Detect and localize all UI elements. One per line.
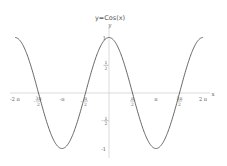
svg-text:π: π [154,96,158,102]
chart-title: y=Cos(x) [95,14,125,22]
x-tick-label: π [154,96,158,102]
y-tick-label: -12 [101,116,108,127]
svg-text:-2 π: -2 π [10,96,20,102]
svg-text:-: - [101,118,103,123]
cosine-chart: y=Cos(x) x y -2 π-3π2-π-π2π2π3π22 π 112-… [0,0,227,166]
svg-text:2: 2 [37,102,40,107]
svg-text:1: 1 [105,116,108,121]
x-tick-label: -2 π [10,96,20,102]
svg-text:2: 2 [105,66,108,71]
svg-text:2: 2 [84,102,87,107]
y-axis-label: y [107,22,112,29]
x-tick-label: 2 π [199,96,208,102]
svg-text:1: 1 [105,60,108,65]
x-tick-label: -π [60,96,66,102]
svg-text:-1: -1 [101,146,106,152]
axes: x y [10,22,215,158]
x-axis-label: x [211,91,215,97]
y-tick-label: -1 [101,146,106,152]
svg-text:2 π: 2 π [199,96,208,102]
svg-text:2: 2 [178,102,181,107]
svg-text:2: 2 [105,121,108,126]
x-tick-label: π2 [130,96,135,107]
svg-text:2: 2 [131,102,134,107]
svg-text:-π: -π [60,96,66,102]
y-tick-label: 12 [104,60,109,71]
